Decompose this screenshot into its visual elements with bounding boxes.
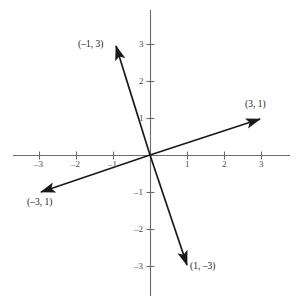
y-tick-label-2: 2	[139, 77, 144, 86]
vector-1-neg3-arrow	[150, 155, 187, 265]
vector-label-neg1-3: (–1, 3)	[78, 40, 103, 50]
x-tick-label-3: 3	[259, 160, 264, 169]
y-tick-label--3: –3	[134, 262, 143, 271]
y-tick-label-1: 1	[139, 114, 144, 123]
x-tick-label-1: 1	[185, 160, 190, 169]
x-tick-label--1: –1	[108, 160, 117, 169]
x-tick-label--3: –3	[34, 160, 43, 169]
y-tick-label--2: –2	[134, 225, 143, 234]
y-tick-label-3: 3	[139, 40, 144, 49]
x-tick-label-2: 2	[222, 160, 227, 169]
vector-diagram-canvas: –3 –2 –1 1 2 3 3 2 1 –1 –2 –3 (–1, 3) (3…	[0, 0, 297, 307]
x-tick-label--2: –2	[71, 160, 80, 169]
coordinate-plane-graphic	[0, 0, 297, 307]
axis-lines	[13, 10, 290, 296]
vector-label-1-neg3: (1, –3)	[190, 262, 215, 272]
vector-neg1-3-arrow	[116, 46, 150, 155]
y-tick-label--1: –1	[134, 188, 143, 197]
vector-label-3-1: (3, 1)	[245, 100, 266, 110]
vector-3-1-arrow	[150, 119, 260, 155]
vector-label-neg3-1: (–3, 1)	[27, 198, 52, 208]
